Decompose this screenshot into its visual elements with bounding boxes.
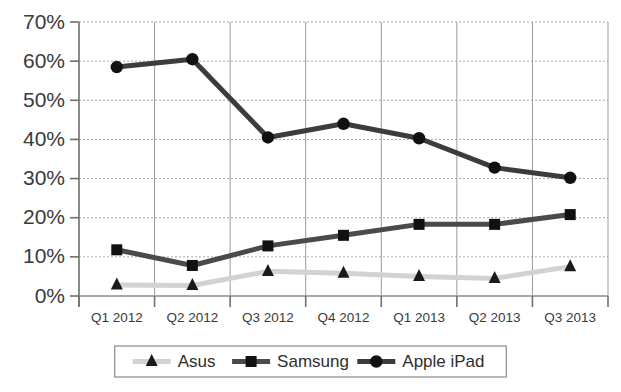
data-point-marker[interactable] (413, 132, 425, 144)
data-point-marker[interactable] (111, 244, 122, 255)
y-axis-tick-label: 70% (23, 10, 65, 33)
data-point-marker[interactable] (186, 53, 198, 65)
legend-label[interactable]: Asus (178, 352, 216, 371)
y-axis-tick-label: 30% (23, 166, 65, 189)
y-axis-tick-label: 20% (23, 205, 65, 228)
x-axis-tick-label: Q2 2013 (469, 310, 521, 325)
chart-canvas: 0%10%20%30%40%50%60%70%Q1 2012Q2 2012Q3 … (0, 0, 621, 392)
x-axis-tick-label: Q1 2012 (91, 310, 143, 325)
x-axis-tick-label: Q4 2012 (318, 310, 370, 325)
data-point-marker[interactable] (565, 209, 576, 220)
data-point-marker[interactable] (370, 355, 382, 367)
legend-label[interactable]: Apple iPad (402, 352, 484, 371)
x-axis-tick-label: Q2 2012 (166, 310, 218, 325)
data-point-marker[interactable] (187, 260, 198, 271)
y-axis-tick-label: 40% (23, 127, 65, 150)
line-chart: 0%10%20%30%40%50%60%70%Q1 2012Q2 2012Q3 … (0, 0, 621, 392)
data-point-marker[interactable] (414, 219, 425, 230)
y-axis-tick-label: 50% (23, 88, 65, 111)
legend-label[interactable]: Samsung (277, 352, 349, 371)
data-point-marker[interactable] (488, 161, 500, 173)
y-axis-tick-label: 10% (23, 244, 65, 267)
y-axis-tick-label: 0% (35, 284, 65, 307)
data-point-marker[interactable] (337, 118, 349, 130)
y-axis-tick-label: 60% (23, 49, 65, 72)
data-point-marker[interactable] (338, 230, 349, 241)
x-axis-tick-label: Q1 2013 (393, 310, 445, 325)
data-point-marker[interactable] (564, 172, 576, 184)
data-point-marker[interactable] (262, 131, 274, 143)
data-point-marker[interactable] (489, 219, 500, 230)
x-axis-tick-label: Q3 2013 (544, 310, 596, 325)
data-point-marker[interactable] (111, 61, 123, 73)
x-axis-tick-label: Q3 2012 (242, 310, 294, 325)
data-point-marker[interactable] (246, 356, 257, 367)
data-point-marker[interactable] (262, 240, 273, 251)
